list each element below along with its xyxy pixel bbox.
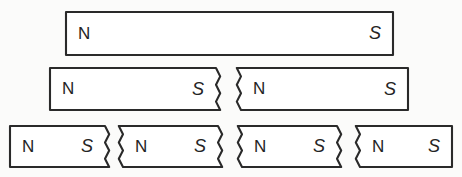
magnet-row2-piece2-north-pole-label: N — [253, 79, 265, 98]
magnet-row3-piece1: NS — [10, 126, 109, 167]
magnet-row2-piece1-north-pole-label: N — [62, 79, 74, 98]
magnet-row1-piece1-north-pole-label: N — [78, 24, 90, 43]
magnet-row3-piece2-south-pole-label: S — [194, 136, 206, 156]
magnet-row3-piece4-south-pole-label: S — [428, 136, 440, 156]
magnet-row3-piece3-south-pole-label: S — [313, 136, 325, 156]
magnet-row3-piece1-north-pole-label: N — [22, 137, 34, 156]
magnet-row2-piece1: NS — [50, 68, 220, 110]
magnet-row-quarters: NSNSNSNS — [10, 126, 452, 167]
magnet-row2-piece2-south-pole-label: S — [384, 79, 396, 99]
magnet-row3-piece3-north-pole-label: N — [254, 137, 266, 156]
magnet-row1-piece1: NS — [66, 12, 393, 55]
magnet-row1-piece1-south-pole-label: S — [369, 23, 381, 43]
figure-canvas: NSNSNSNSNSNSNS — [0, 0, 462, 177]
magnet-row2-piece1-south-pole-label: S — [192, 79, 204, 99]
magnet-row3-piece3: NS — [238, 126, 341, 167]
magnet-row3-piece2-north-pole-label: N — [135, 137, 147, 156]
magnet-row1-piece1-outline — [66, 12, 393, 55]
magnet-row-whole-magnet: NS — [66, 12, 393, 55]
magnet-row3-piece2: NS — [119, 126, 222, 167]
magnet-row3-piece4-north-pole-label: N — [372, 137, 384, 156]
magnet-row-halves: NSNS — [50, 68, 408, 110]
magnet-row3-piece4: NS — [356, 126, 452, 167]
magnet-row3-piece1-south-pole-label: S — [81, 136, 93, 156]
magnet-subdivision-figure: NSNSNSNSNSNSNS — [0, 0, 462, 177]
magnet-row2-piece2: NS — [237, 68, 408, 110]
